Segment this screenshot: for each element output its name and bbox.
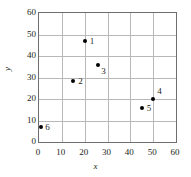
plot-area: 123456 xyxy=(38,12,177,143)
x-tick-label: 50 xyxy=(142,148,162,157)
gridline-horizontal xyxy=(39,121,176,122)
gridline-horizontal xyxy=(39,99,176,100)
data-point-label: 6 xyxy=(45,123,50,132)
data-point xyxy=(83,39,87,43)
y-tick-label: 20 xyxy=(2,94,36,103)
y-tick-label: 50 xyxy=(2,30,36,39)
y-tick-label: 30 xyxy=(2,73,36,82)
data-point xyxy=(39,125,43,129)
x-axis-tick-labels: 0102030405060 xyxy=(0,148,191,160)
y-tick-label: 10 xyxy=(2,116,36,125)
data-point xyxy=(71,79,75,83)
x-tick-label: 40 xyxy=(119,148,139,157)
data-point xyxy=(96,63,100,67)
data-point xyxy=(140,106,144,110)
scatter-chart: 123456 0102030405060 0102030405060 y x xyxy=(0,0,191,177)
x-tick-label: 30 xyxy=(97,148,117,157)
data-point-label: 2 xyxy=(78,77,83,86)
y-axis-title: y xyxy=(2,67,12,71)
y-tick-label: 40 xyxy=(2,51,36,60)
data-point-label: 5 xyxy=(147,104,152,113)
gridline-horizontal xyxy=(39,78,176,79)
x-tick-label: 0 xyxy=(28,148,48,157)
y-tick-label: 60 xyxy=(2,8,36,17)
x-axis-title: x xyxy=(0,161,191,171)
gridline-horizontal xyxy=(39,56,176,57)
gridline-horizontal xyxy=(39,35,176,36)
x-tick-label: 20 xyxy=(74,148,94,157)
data-point xyxy=(151,97,155,101)
y-tick-label: 0 xyxy=(2,137,36,146)
data-point-label: 1 xyxy=(90,37,95,46)
data-point-label: 4 xyxy=(157,87,162,96)
data-point-label: 3 xyxy=(101,67,106,76)
x-tick-label: 10 xyxy=(51,148,71,157)
x-tick-label: 60 xyxy=(165,148,185,157)
